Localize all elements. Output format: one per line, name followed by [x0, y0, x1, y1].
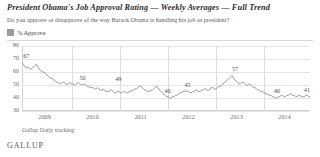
- y-axis-tick: 60: [13, 69, 19, 75]
- gridline-horizontal: [22, 111, 310, 112]
- chart-legend: % Approve: [7, 29, 46, 36]
- y-axis-tick: 50: [13, 82, 19, 88]
- data-point-label: 57: [232, 66, 238, 72]
- x-axis-tick: 2011: [134, 114, 146, 120]
- x-axis-tick: 2013: [230, 114, 242, 120]
- data-point-label: 49: [115, 76, 121, 82]
- data-point-label: 40: [164, 88, 170, 94]
- x-axis-tick: 2010: [86, 114, 98, 120]
- y-axis-tick: 30: [13, 108, 19, 114]
- y-axis-tick: 80: [13, 43, 19, 49]
- x-axis-tick: 2014: [278, 114, 290, 120]
- plot-area: 807060504030 200920102011201220132014 67…: [22, 46, 310, 111]
- legend-divider: [7, 40, 313, 41]
- data-point-label: 41: [304, 87, 310, 93]
- source-note: Gallup Daily tracking: [22, 127, 74, 133]
- data-point-label: 45: [185, 82, 191, 88]
- x-axis-tick: 2012: [182, 114, 194, 120]
- chart-subtitle: Do you approve or disapprove of the way …: [7, 16, 229, 23]
- legend-label: % Approve: [17, 29, 46, 36]
- page-title: President Obama's Job Approval Rating — …: [7, 3, 270, 12]
- brand-logo: GALLUP: [7, 141, 44, 150]
- data-point-label: 50: [79, 75, 85, 81]
- chart-page: President Obama's Job Approval Rating — …: [0, 0, 320, 157]
- y-axis-tick: 40: [13, 95, 19, 101]
- series-line: [22, 46, 310, 111]
- y-axis-tick: 70: [13, 56, 19, 62]
- data-point-label: 67: [23, 53, 29, 59]
- x-axis-tick: 2009: [38, 114, 50, 120]
- data-point-label: 40: [274, 88, 280, 94]
- legend-swatch-icon: [7, 29, 14, 36]
